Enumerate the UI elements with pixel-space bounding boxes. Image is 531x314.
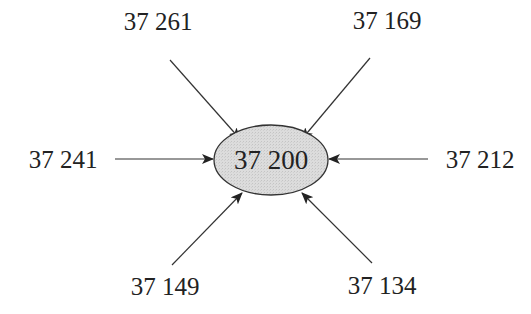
node-right: 37 212 [446,146,515,173]
converging-diagram: 37 200 37 261 37 169 37 241 37 212 37 14… [0,0,531,314]
node-bottom-left: 37 149 [131,273,200,300]
arrow-bottom-right [302,193,372,263]
center-label: 37 200 [234,145,308,175]
node-top-right: 37 169 [353,7,422,34]
arrow-bottom-left [172,193,242,265]
arrow-top-left [170,60,240,139]
center-node: 37 200 [214,125,328,195]
arrow-top-right [302,58,370,139]
node-bottom-right: 37 134 [348,272,417,299]
node-top-left: 37 261 [124,8,193,35]
node-left: 37 241 [29,146,98,173]
